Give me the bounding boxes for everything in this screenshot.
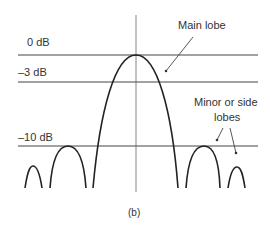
label-0db: 0 dB — [27, 37, 50, 48]
label-side-lobes-line1: Minor or side — [194, 97, 258, 108]
label-minus-10db: –10 dB — [18, 132, 53, 143]
figure-caption: (b) — [128, 208, 140, 218]
right-side-lobe-curve — [186, 146, 220, 188]
left-side-lobe-curve — [50, 146, 86, 188]
label-main-lobe: Main lobe — [178, 20, 226, 31]
side-lobe-arrowhead-1 — [216, 139, 219, 142]
far-left-minor-lobe-curve — [25, 166, 42, 188]
main-lobe-arrow — [166, 37, 193, 71]
label-minus-3db: –3 dB — [18, 67, 47, 78]
label-side-lobes-line2: lobes — [214, 112, 240, 123]
side-lobe-arrow-2 — [230, 128, 236, 153]
main-lobe-arrowhead — [165, 70, 168, 73]
side-lobe-arrow-1 — [217, 128, 223, 140]
far-right-minor-lobe-curve — [228, 167, 245, 188]
side-lobe-arrowhead-2 — [235, 152, 238, 155]
